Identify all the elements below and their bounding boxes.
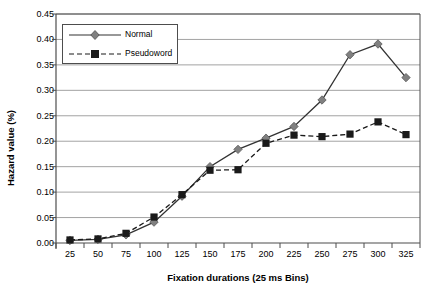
x-tick-label: 275 (335, 249, 365, 259)
data-point (346, 130, 353, 137)
x-tick-label: 75 (111, 249, 141, 259)
x-tick-label: 200 (251, 249, 281, 259)
data-point (206, 167, 213, 174)
data-point (318, 133, 325, 140)
x-tick-label: 250 (307, 249, 337, 259)
x-tick-label: 100 (139, 249, 169, 259)
data-point (94, 235, 101, 242)
data-point (402, 131, 409, 138)
legend-swatch-normal (67, 25, 123, 45)
x-tick-label: 325 (391, 249, 421, 259)
data-point (374, 118, 381, 125)
data-point (262, 140, 269, 147)
legend-item-normal: Normal (63, 25, 179, 45)
data-point (122, 230, 129, 237)
legend-label-pseudoword: Pseudoword (125, 48, 172, 58)
x-tick-label: 50 (83, 249, 113, 259)
x-tick-label: 125 (167, 249, 197, 259)
data-point (66, 236, 73, 243)
x-tick-label: 150 (195, 249, 225, 259)
x-tick-label: 225 (279, 249, 309, 259)
data-point (178, 191, 185, 198)
x-axis-title: Fixation durations (25 ms Bins) (56, 272, 420, 283)
data-point (234, 166, 241, 173)
chart-figure: Hazard value (%) 0.000.050.100.150.200.2… (0, 0, 434, 296)
x-axis-tick-labels: 255075100125150175200225250275300325 (0, 249, 434, 261)
legend-label-normal: Normal (125, 29, 152, 39)
chart-legend: Normal Pseudoword (62, 24, 178, 64)
x-tick-label: 300 (363, 249, 393, 259)
x-tick-label: 175 (223, 249, 253, 259)
data-point (150, 213, 157, 220)
legend-swatch-pseudoword (67, 44, 123, 64)
x-tick-label: 25 (55, 249, 85, 259)
legend-item-pseudoword: Pseudoword (63, 44, 179, 64)
data-point (290, 132, 297, 139)
